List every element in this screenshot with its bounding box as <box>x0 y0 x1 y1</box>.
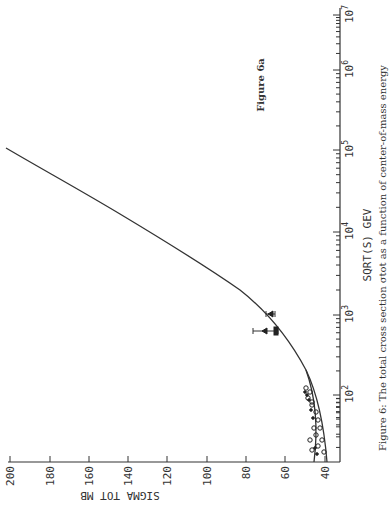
data-point-square <box>274 327 278 335</box>
cross-section-chart: 200180160140120100806040 102103104105106… <box>0 0 389 516</box>
xtick-label: 103 <box>341 305 356 323</box>
ytick-label: 140 <box>122 466 135 486</box>
data-point-filled <box>316 453 319 456</box>
ytick-label: 160 <box>83 466 96 486</box>
data-points <box>253 311 326 455</box>
data-point-open <box>308 438 312 442</box>
ytick-label: 100 <box>201 466 214 486</box>
xtick-label: 107 <box>341 5 356 23</box>
data-point-open <box>320 438 324 442</box>
ytick-label: 40 <box>319 466 332 479</box>
ytick-label: 120 <box>161 466 174 486</box>
data-point-triangle <box>262 328 267 334</box>
figure-caption: Figure 6: The total cross section σtot a… <box>377 65 388 451</box>
data-point-open <box>318 426 322 430</box>
ytick-label: 180 <box>44 466 57 486</box>
ytick-label: 80 <box>240 466 253 479</box>
data-point-filled <box>312 417 315 420</box>
ytick-label: 60 <box>279 466 292 479</box>
data-point-open <box>316 418 320 422</box>
xtick-label: 102 <box>341 385 356 403</box>
yaxis-title: SIGMA TOT MB <box>80 489 160 502</box>
data-point-open <box>310 403 314 407</box>
data-point-filled <box>310 409 313 412</box>
figure-tag: Figure 6a <box>255 58 266 112</box>
xtick-label: 106 <box>341 60 356 78</box>
data-point-open <box>304 386 308 390</box>
data-point-filled <box>306 394 309 397</box>
data-point-filled <box>304 391 307 394</box>
data-point-filled <box>314 447 317 450</box>
xaxis-title: SQRT(S) GEV <box>361 208 374 281</box>
xtick-label: 104 <box>341 222 356 240</box>
ytick-label: 200 <box>4 466 17 486</box>
fit-curve <box>6 148 327 462</box>
xtick-label: 105 <box>341 140 356 158</box>
data-point-filled <box>308 399 311 402</box>
energy-axis: 102103104105106107 <box>333 5 356 462</box>
sigma-axis: 200180160140120100806040 <box>4 456 340 486</box>
